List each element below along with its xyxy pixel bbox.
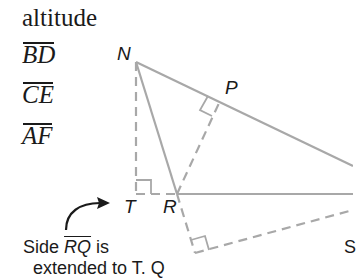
side-np	[136, 62, 353, 166]
curved-arrow-icon	[66, 203, 100, 230]
cut-label-s: S	[344, 236, 356, 258]
point-label-r: R	[163, 197, 177, 217]
note-segment-rq: RQ	[64, 237, 91, 257]
altitude-q	[195, 210, 353, 253]
right-angle-t	[136, 180, 151, 194]
extension-rq	[177, 194, 195, 253]
point-label-p: P	[225, 78, 238, 98]
note-line-2: extended to T. Q	[33, 257, 165, 279]
side-nr	[136, 62, 177, 194]
right-angle-p	[200, 96, 212, 116]
note-line-1: Side RQ is	[23, 236, 109, 258]
note-suffix: is	[91, 237, 109, 257]
point-label-t: T	[124, 197, 136, 217]
altitude-rp	[177, 101, 220, 194]
right-angle-q	[191, 236, 209, 250]
point-label-n: N	[117, 44, 131, 64]
note-prefix: Side	[23, 237, 64, 257]
